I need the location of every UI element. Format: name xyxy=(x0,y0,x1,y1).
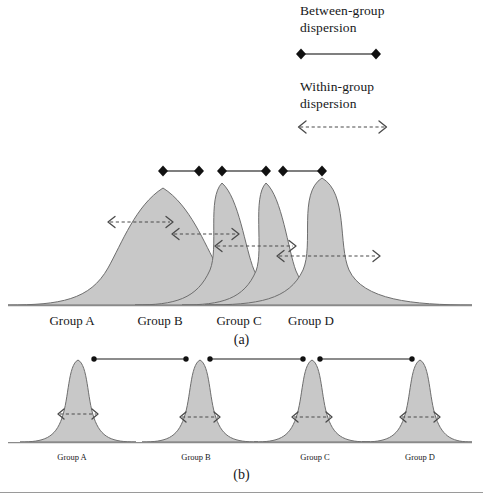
panel-b-group-label-0: Group A xyxy=(57,452,87,462)
panel-b-group-label-2: Group C xyxy=(300,452,330,462)
panel-b-group-label-3: Group D xyxy=(405,452,435,462)
panel-b-curves xyxy=(20,360,472,442)
panel-b-caption: (b) xyxy=(0,467,483,483)
figure-dispersion-diagram: Between-group dispersion Within-group di… xyxy=(0,0,483,500)
panel-b-within-group-arrows xyxy=(58,409,440,422)
panel-b-graphics xyxy=(0,0,483,500)
curve-b-group-d xyxy=(362,360,472,442)
curve-b-group-a xyxy=(20,360,136,442)
curve-b-group-b xyxy=(142,360,258,442)
curve-b-group-c xyxy=(254,360,370,442)
panel-b-between-group-markers xyxy=(91,356,414,361)
bottom-rule xyxy=(0,492,483,493)
panel-b-group-label-1: Group B xyxy=(181,452,211,462)
